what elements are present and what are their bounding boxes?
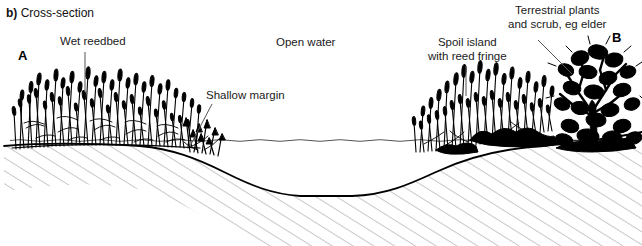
endpoint-marker-a: A xyxy=(18,48,27,63)
leader-terrestrial-plants xyxy=(538,40,572,74)
label-spoil-island: Spoil island with reed fringe xyxy=(428,36,507,63)
label-terrestrial-plants: Terrestrial plants and scrub, eg elder xyxy=(508,4,606,31)
label-open-water: Open water xyxy=(276,36,335,50)
label-shallow-margin: Shallow margin xyxy=(206,89,285,103)
endpoint-marker-b: B xyxy=(612,30,621,45)
spoil-island-reed-fringe xyxy=(412,60,558,154)
wet-reedbed-vegetation xyxy=(12,67,201,149)
elder-scrub-shrub xyxy=(546,36,642,152)
label-wet-reedbed: Wet reedbed xyxy=(60,35,126,49)
hatched-ground-fill xyxy=(0,132,642,246)
